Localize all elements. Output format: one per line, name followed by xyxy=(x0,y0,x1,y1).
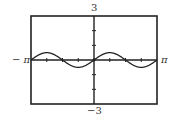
y-min-label: −3 xyxy=(87,106,102,116)
y-max-label: 3 xyxy=(91,3,97,13)
x-min-label: − π xyxy=(12,55,30,65)
x-max-label: π xyxy=(161,55,168,65)
